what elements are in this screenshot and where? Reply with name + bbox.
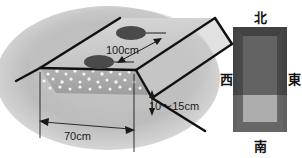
compass-inner-light [243, 95, 277, 122]
compass-panel: 北 西 東 南 [220, 10, 301, 154]
figure-root: 100cm 10〜15cm 70cm [0, 0, 302, 158]
compass-label-west: 西 [220, 72, 233, 87]
figure-svg: 100cm 10〜15cm 70cm [0, 0, 302, 158]
bed-width-label: 70cm [64, 130, 91, 142]
compass-bevel-left [233, 27, 243, 132]
compass-bevel-right [277, 27, 287, 132]
planting-spot-2 [84, 55, 114, 69]
bed-depth-label: 10〜15cm [149, 100, 199, 112]
compass-inner-dark [243, 36, 277, 95]
planting-spot-1 [116, 26, 146, 40]
plant-spacing-label: 100cm [106, 44, 139, 56]
compass-label-north: 北 [254, 10, 267, 25]
bed-diagram-panel: 100cm 10〜15cm 70cm [0, 6, 232, 152]
compass-label-south: 南 [254, 139, 267, 154]
compass-bevel-group [233, 27, 287, 132]
compass-label-east: 東 [288, 72, 301, 87]
